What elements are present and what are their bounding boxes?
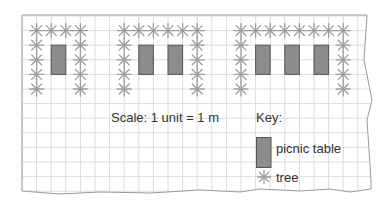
grid-paper-diagram [0, 0, 391, 206]
tree-icon [117, 24, 131, 38]
tree-icon [336, 53, 350, 67]
tree-icon [59, 24, 73, 38]
tree-icon [146, 24, 160, 38]
legend-tree-icon [258, 171, 271, 184]
scale-label: Scale: 1 unit = 1 m [111, 111, 219, 124]
picnic-table-icon [314, 45, 329, 74]
tree-icon [161, 24, 175, 38]
tree-icon [336, 24, 350, 38]
tree-icon [234, 53, 248, 67]
key-label-picnic-table: picnic table [276, 142, 341, 155]
tree-icon [322, 24, 336, 38]
tree-icon [73, 67, 87, 81]
tree-icon [249, 24, 263, 38]
tree-icon [30, 67, 44, 81]
picnic-table-icon [51, 45, 66, 74]
tree-icon [292, 24, 306, 38]
tree-icon [30, 38, 44, 52]
tree-icon [336, 82, 350, 96]
picnic-table-icon [168, 45, 183, 74]
tree-icon [117, 67, 131, 81]
legend-picnic-table-icon [257, 138, 272, 168]
tree-icon [73, 82, 87, 96]
tree-icon [263, 24, 277, 38]
tree-icon [234, 24, 248, 38]
tree-icon [336, 38, 350, 52]
key-label-tree: tree [276, 171, 298, 184]
tree-icon [307, 24, 321, 38]
tree-icon [117, 82, 131, 96]
key-title: Key: [256, 111, 282, 124]
picnic-table-icon [256, 45, 271, 74]
tree-icon [234, 67, 248, 81]
tree-icon [190, 53, 204, 67]
picnic-table-icon [285, 45, 300, 74]
tree-icon [73, 24, 87, 38]
tree-icon [190, 24, 204, 38]
tree-icon [30, 82, 44, 96]
tree-icon [190, 38, 204, 52]
tree-icon [234, 82, 248, 96]
tree-icon [190, 67, 204, 81]
tree-icon [176, 24, 190, 38]
tree-icon [336, 67, 350, 81]
tree-icon [30, 53, 44, 67]
tree-icon [73, 53, 87, 67]
legend-icons [257, 138, 272, 184]
tree-icon [132, 24, 146, 38]
tree-icon [234, 38, 248, 52]
tree-icon [73, 38, 87, 52]
tree-icon [30, 24, 44, 38]
tree-icon [44, 24, 58, 38]
tree-icon [190, 82, 204, 96]
tree-icon [117, 38, 131, 52]
tree-icon [117, 53, 131, 67]
picnic-table-icon [139, 45, 154, 74]
tree-icon [278, 24, 292, 38]
